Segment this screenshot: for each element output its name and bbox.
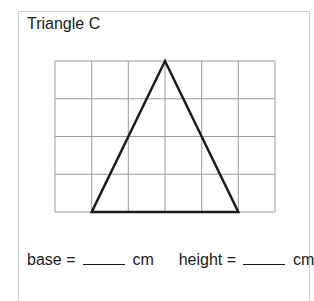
height-answer-blank[interactable] (243, 250, 285, 265)
height-label: height = (179, 250, 236, 270)
answer-row: base = cm height = cm (27, 250, 314, 270)
base-unit: cm (132, 250, 153, 270)
base-label: base = (27, 250, 75, 270)
grid (55, 61, 275, 212)
base-answer-blank[interactable] (83, 250, 125, 265)
height-unit: cm (293, 250, 314, 270)
